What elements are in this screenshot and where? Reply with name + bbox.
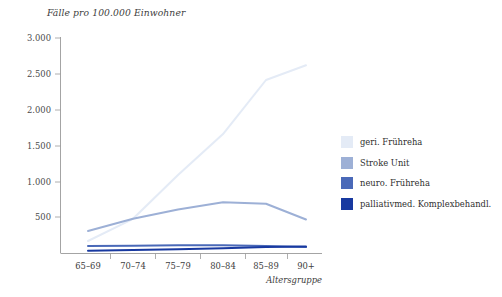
y-tick-500: 500	[35, 212, 61, 222]
y-axis-group: 3.000 2.500 2.000 1.500 1.000 500	[27, 33, 60, 253]
x-tick-label: 75–79	[165, 261, 191, 271]
x-tick-label: 80–84	[210, 261, 236, 271]
legend-item-stroke-unit: Stroke Unit	[341, 157, 491, 169]
x-tick-label: 85–89	[253, 261, 279, 271]
series-group	[88, 65, 306, 250]
y-tick-label: 500	[35, 212, 51, 222]
legend-item-label: neuro. Frühreha	[360, 178, 430, 188]
y-tick-label: 2.500	[27, 69, 51, 79]
y-tick-3000: 3.000	[27, 33, 60, 43]
legend-swatch-icon	[341, 136, 353, 148]
series-line-palliativmed	[88, 246, 306, 250]
legend-swatch-icon	[341, 157, 353, 169]
legend-item-label: Stroke Unit	[360, 158, 409, 168]
y-tick-label: 2.000	[27, 105, 51, 115]
legend-item-label: palliativmed. Komplexbehandl.	[360, 199, 491, 209]
legend-item-label: geri. Frühreha	[360, 137, 422, 147]
x-tick-label: 70–74	[120, 261, 146, 271]
legend-item-geri-fruehreha: geri. Frühreha	[341, 136, 491, 148]
y-tick-1500: 1.500	[27, 141, 60, 151]
legend-item-palliativmed: palliativmed. Komplexbehandl.	[341, 198, 491, 210]
chart-legend: geri. Frühreha Stroke Unit neuro. Frühre…	[341, 136, 491, 210]
y-tick-label: 1.000	[27, 177, 51, 187]
x-tick-label: 65–69	[75, 261, 101, 271]
legend-swatch-icon	[341, 177, 353, 189]
y-tick-1000: 1.000	[27, 177, 60, 187]
legend-swatch-icon	[341, 198, 353, 210]
series-line-stroke-unit	[88, 202, 306, 231]
legend-item-neuro-fruehreha: neuro. Frühreha	[341, 177, 491, 189]
x-axis-group: 65–69 70–74 75–79 80–84 85–89 90+ Alters…	[61, 254, 323, 286]
y-tick-label: 3.000	[27, 33, 51, 43]
series-line-geri-fruehreha	[88, 65, 306, 241]
y-tick-label: 1.500	[27, 141, 51, 151]
y-tick-2000: 2.000	[27, 105, 60, 115]
x-tick-label: 90+	[297, 261, 315, 271]
chart-canvas: Fälle pro 100.000 Einwohner 3.000 2.500 …	[0, 0, 502, 297]
y-tick-2500: 2.500	[27, 69, 60, 79]
x-axis-title: Altersgruppe	[265, 275, 322, 285]
